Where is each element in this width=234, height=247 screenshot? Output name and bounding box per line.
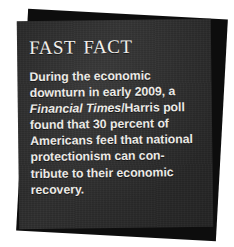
fast-fact-callout: Fast Fact During the economic downturn i… xyxy=(0,0,234,247)
body-line-5: Americans feel that national xyxy=(30,131,202,149)
cited-publication-italic: Financial Times xyxy=(30,101,121,116)
body-line-3: Financial Times/Harris poll xyxy=(30,99,202,117)
callout-content: Fast Fact During the economic downturn i… xyxy=(17,19,213,198)
body-line-8: recovery. xyxy=(31,180,203,198)
body-line-3-rest: /Harris poll xyxy=(121,100,185,115)
fast-fact-title: Fast Fact xyxy=(29,30,201,59)
fast-fact-body: During the economic downturn in early 20… xyxy=(29,67,203,198)
callout-card: Fast Fact During the economic downturn i… xyxy=(17,19,214,229)
